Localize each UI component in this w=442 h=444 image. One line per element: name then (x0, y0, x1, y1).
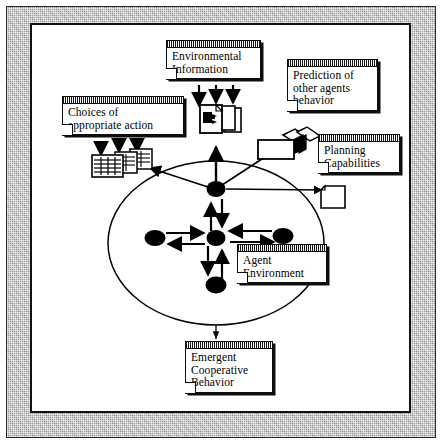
note-line-2: Information (172, 63, 255, 76)
note-environmental-information[interactable]: Environmental Information (166, 40, 261, 79)
note-header-strip (186, 342, 272, 349)
note-header-strip (319, 135, 399, 142)
note-corner-fold (185, 382, 196, 393)
note-line-2: Environment (243, 267, 321, 280)
note-line-2: other agents (293, 82, 372, 95)
note-line-2: Capabilities (324, 157, 394, 170)
note-header-strip (63, 97, 183, 104)
note-line-1: Environmental (172, 50, 255, 63)
note-corner-fold (287, 100, 298, 111)
note-prediction-of-other-agents-behavior[interactable]: Prediction of other agents behavior (287, 59, 378, 111)
note-text: Emergent Cooperative Behavior (186, 349, 272, 392)
figure-canvas: Environmental Information Prediction of … (0, 0, 442, 444)
note-line-1: Choices of (68, 106, 178, 119)
note-corner-fold (166, 68, 177, 79)
note-header-strip (288, 60, 377, 67)
note-corner-fold (62, 124, 73, 135)
note-agent-environment[interactable]: Agent Environment (237, 244, 327, 283)
note-corner-fold (318, 162, 329, 173)
note-line-1: Prediction of (293, 69, 372, 82)
note-text: Planning Capabilities (319, 142, 399, 172)
note-corner-fold (237, 272, 248, 283)
note-line-1: Emergent (191, 351, 267, 364)
note-text: Agent Environment (238, 252, 326, 282)
note-line-3: behavior (293, 94, 372, 107)
note-emergent-cooperative-behavior[interactable]: Emergent Cooperative Behavior (185, 341, 273, 393)
note-line-1: Agent (243, 254, 321, 267)
note-header-strip (167, 41, 260, 48)
note-header-strip (238, 245, 326, 252)
note-line-3: Behavior (191, 376, 267, 389)
note-line-2: Cooperative (191, 364, 267, 377)
note-text: Environmental Information (167, 48, 260, 78)
note-line-2: appropriate action (68, 119, 178, 132)
note-planning-capabilities[interactable]: Planning Capabilities (318, 134, 400, 173)
note-text: Choices of appropriate action (63, 104, 183, 134)
note-text: Prediction of other agents behavior (288, 67, 377, 110)
note-choices-of-appropriate-action[interactable]: Choices of appropriate action (62, 96, 184, 135)
note-line-1: Planning (324, 144, 394, 157)
